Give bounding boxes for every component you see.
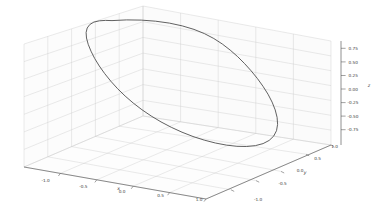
x-tick-label: -0.5: [79, 184, 88, 189]
z-tick-label: 0.25: [349, 73, 359, 78]
figure-canvas: -1.0 -0.5 0.0 0.5 1.0 -1.0 -0.5 0.0 0.5 …: [0, 0, 377, 215]
z-tick-labels: 0.75 0.50 0.25 0.00 -0.25 -0.50 -0.75: [348, 46, 359, 132]
y-tick-label: -0.5: [278, 181, 287, 186]
y-tick-label: 0.0: [297, 168, 304, 173]
plot-3d: -1.0 -0.5 0.0 0.5 1.0 -1.0 -0.5 0.0 0.5 …: [0, 0, 377, 215]
z-tick-label: 0.50: [349, 60, 359, 65]
z-tick-label: 0.00: [349, 87, 359, 92]
y-tick-label: 1.0: [331, 144, 338, 149]
x-tick-label: 1.0: [196, 197, 203, 202]
y-tick-label: 0.5: [314, 156, 321, 161]
z-tick-label: -0.50: [348, 114, 359, 119]
z-tick-label: -0.75: [348, 127, 359, 132]
y-tick-label: -1.0: [254, 197, 263, 202]
x-tick-label: -1.0: [41, 178, 50, 183]
z-axis-label: z: [367, 83, 371, 88]
z-tick-label: -0.25: [348, 100, 359, 105]
x-tick-label: 0.5: [157, 193, 164, 198]
y-axis-label: y: [303, 170, 307, 175]
x-axis-label: x: [116, 186, 120, 191]
z-tick-label: 0.75: [349, 46, 359, 51]
z-tick-marks: [341, 48, 346, 129]
axes3d-panes: [24, 6, 331, 199]
